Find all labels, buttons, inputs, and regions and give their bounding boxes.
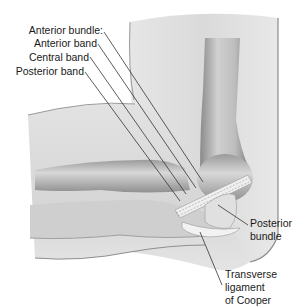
label-transverse-1: Transverse <box>225 268 277 280</box>
label-central-band: Central band <box>0 51 89 63</box>
label-transverse-2: ligament <box>225 281 265 293</box>
label-posterior-band: Posterior band <box>0 65 84 77</box>
label-posterior-bundle-1: Posterior <box>250 217 292 229</box>
label-posterior-bundle-2: bundle <box>250 230 282 242</box>
label-anterior-band: Anterior band <box>0 37 97 49</box>
label-anterior-bundle: Anterior bundle: <box>0 24 103 36</box>
label-transverse-3: of Cooper <box>225 294 271 306</box>
